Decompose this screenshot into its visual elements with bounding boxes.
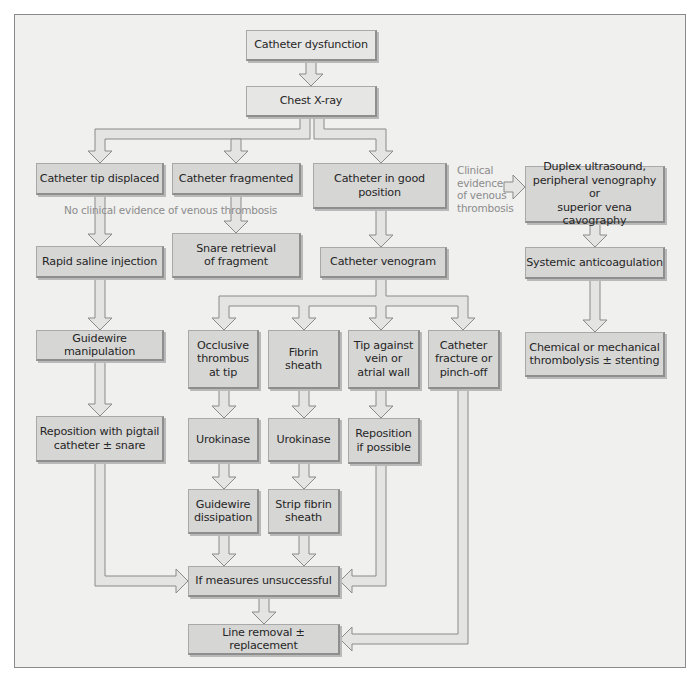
node-reposition-pigtail: Reposition with pigtail catheter ± snare xyxy=(36,416,164,462)
node-urokinase-1: Urokinase xyxy=(188,418,259,462)
node-label: Tip against vein or atrial wall xyxy=(354,339,413,380)
arrow-urokinase-to-strip xyxy=(292,462,316,489)
node-guidewire-manipulation: Guidewire manipulation xyxy=(36,330,164,361)
node-label: Reposition with pigtail catheter ± snare xyxy=(40,425,159,452)
node-label: Catheter venogram xyxy=(330,255,436,269)
node-label: Occlusive thrombus at tip xyxy=(197,339,249,380)
arrow-tip-against-to-reposition xyxy=(369,389,393,418)
node-reposition-possible: Reposition if possible xyxy=(348,418,420,464)
node-label: Line removal ± replacement xyxy=(189,626,338,653)
node-venogram: Catheter venogram xyxy=(320,247,447,278)
arrow-xray-to-fragmented xyxy=(224,139,248,163)
node-occlusive-thrombus: Occlusive thrombus at tip xyxy=(188,330,259,389)
arrow-strip-to-measures xyxy=(292,534,316,566)
node-thrombolysis: Chemical or mechanical thrombolysis ± st… xyxy=(525,332,665,377)
arrow-fibrin-to-urokinase xyxy=(292,389,316,418)
node-label: Guidewire manipulation xyxy=(37,332,162,359)
arrow-venogram-bus xyxy=(212,278,475,330)
node-fibrin-sheath: Fibrin sheath xyxy=(268,330,340,389)
node-label: Strip fibrin sheath xyxy=(275,498,331,525)
node-label: Reposition if possible xyxy=(355,427,411,454)
node-good-position: Catheter in good position xyxy=(313,163,447,209)
node-label: Urokinase xyxy=(277,433,331,447)
node-label: Urokinase xyxy=(196,433,250,447)
node-tip-displaced: Catheter tip displaced xyxy=(36,163,164,195)
node-rapid-saline: Rapid saline injection xyxy=(36,246,164,278)
node-label: Catheter in good position xyxy=(334,172,425,199)
node-strip-fibrin: Strip fibrin sheath xyxy=(268,489,340,534)
node-chest-xray: Chest X-ray xyxy=(246,86,377,117)
arrow-dysfunction-to-xray xyxy=(299,61,323,86)
node-measures-unsuccessful: If measures unsuccessful xyxy=(188,566,340,597)
node-label: Catheter dysfunction xyxy=(254,38,368,52)
node-catheter-dysfunction: Catheter dysfunction xyxy=(246,30,377,61)
arrow-good-position-to-venogram xyxy=(369,209,393,247)
node-label: If measures unsuccessful xyxy=(195,574,331,588)
node-label: Chemical or mechanical thrombolysis ± st… xyxy=(529,341,659,368)
node-tip-against-wall: Tip against vein or atrial wall xyxy=(348,330,420,389)
arrow-saline-to-guidewire xyxy=(88,278,112,330)
node-label: Catheter fragmented xyxy=(179,172,293,186)
node-urokinase-2: Urokinase xyxy=(268,418,340,462)
node-label: Snare retrieval of fragment xyxy=(196,242,276,269)
arrow-anticoag-to-thrombolysis xyxy=(583,279,607,332)
arrow-occlusive-to-urokinase xyxy=(212,389,236,418)
node-guidewire-dissipation: Guidewire dissipation xyxy=(188,489,259,534)
node-label: Chest X-ray xyxy=(280,94,343,108)
node-duplex: Duplex ultrasound, peripheral venography… xyxy=(525,166,665,223)
arrow-pigtail-to-measures xyxy=(95,462,188,593)
arrow-dissipation-to-measures xyxy=(212,534,236,566)
node-label: Systemic anticoagulation xyxy=(526,256,663,270)
node-fragmented: Catheter fragmented xyxy=(172,163,301,195)
node-label: Guidewire dissipation xyxy=(194,498,252,525)
node-label: Duplex ultrasound, peripheral venography… xyxy=(526,160,663,228)
note-clinical-evidence: Clinical evidence of venous thrombosis xyxy=(457,164,513,214)
node-fracture-pinchoff: Catheter fracture or pinch-off xyxy=(428,330,500,389)
arrow-xray-to-good-position xyxy=(314,117,393,163)
node-systemic-anticoag: Systemic anticoagulation xyxy=(525,247,665,279)
arrow-measures-to-removal xyxy=(252,597,276,624)
arrow-reposition-to-measures xyxy=(340,464,386,593)
node-label: Catheter fracture or pinch-off xyxy=(435,339,492,380)
arrow-tip-to-saline xyxy=(88,195,112,246)
node-snare-retrieval: Snare retrieval of fragment xyxy=(172,233,301,278)
note-no-thrombosis: No clinical evidence of venous thrombosi… xyxy=(64,204,277,217)
arrow-guidewire-to-pigtail xyxy=(88,361,112,416)
node-label: Fibrin sheath xyxy=(285,346,322,373)
node-label: Rapid saline injection xyxy=(42,255,157,269)
node-label: Catheter tip displaced xyxy=(40,172,159,186)
arrow-xray-to-tip-displaced xyxy=(88,117,310,163)
node-line-removal: Line removal ± replacement xyxy=(188,624,340,655)
arrow-urokinase-to-dissipation xyxy=(212,462,236,489)
